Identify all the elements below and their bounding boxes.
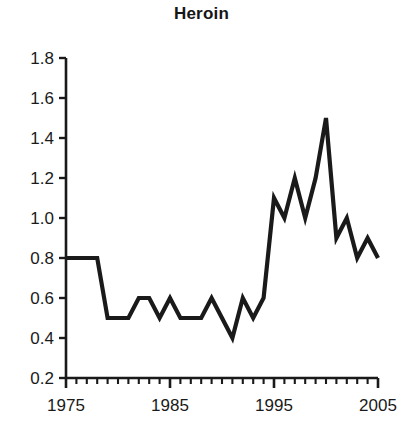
- chart-figure: Heroin 0.20.40.60.81.01.21.41.61.8 19751…: [0, 0, 403, 429]
- y-axis-tick-label: 1.4: [30, 129, 54, 148]
- line-chart-plot: 0.20.40.60.81.01.21.41.61.8 197519851995…: [0, 0, 403, 429]
- y-axis: 0.20.40.60.81.01.21.41.61.8: [30, 49, 66, 388]
- y-axis-tick-label: 0.4: [30, 329, 54, 348]
- series-line-heroin: [66, 118, 378, 338]
- y-axis-tick-label: 0.2: [30, 369, 54, 388]
- y-axis-tick-label: 0.8: [30, 249, 54, 268]
- y-axis-tick-label: 1.2: [30, 169, 54, 188]
- y-axis-tick-label: 0.6: [30, 289, 54, 308]
- x-axis-tick-label: 1985: [151, 396, 189, 415]
- y-axis-tick-label: 1.0: [30, 209, 54, 228]
- x-axis-tick-label: 1995: [255, 396, 293, 415]
- x-axis-tick-label: 1975: [47, 396, 85, 415]
- y-axis-tick-label: 1.8: [30, 49, 54, 68]
- data-series-heroin: [66, 118, 378, 338]
- x-axis-tick-label: 2005: [359, 396, 397, 415]
- x-axis: 1975198519952005: [47, 378, 397, 415]
- y-axis-tick-label: 1.6: [30, 89, 54, 108]
